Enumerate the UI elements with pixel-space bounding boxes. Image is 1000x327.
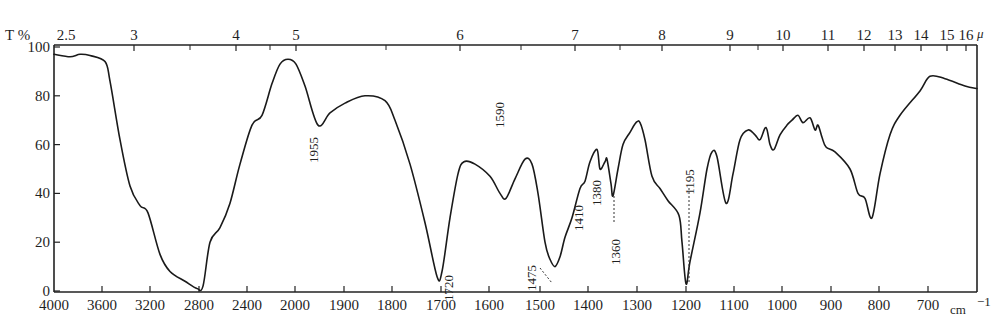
peak-label-1410: 1410: [571, 205, 586, 231]
peak-label-1380: 1380: [589, 180, 604, 206]
top-tick-label: 15: [940, 27, 955, 43]
x-tick-label: 1900: [329, 297, 359, 313]
svg-text:1955: 1955: [306, 137, 321, 163]
top-tick-label: 11: [821, 27, 835, 43]
y-axis-ticks: 020406080100: [28, 39, 61, 299]
top-tick-label: 10: [776, 27, 791, 43]
spectrum-line: [54, 54, 977, 290]
top-tick-label: 8: [658, 27, 666, 43]
x-tick-label: 3600: [87, 297, 117, 313]
x-tick-label: 700: [917, 297, 940, 313]
peak-label-1475: 1475: [524, 265, 552, 291]
x-axis-wavelength-ticks: 2.5345678910111213141516: [57, 27, 974, 51]
x-tick-label: 1300: [622, 297, 652, 313]
top-tick-label: 6: [456, 27, 464, 43]
x-tick-label: 3200: [135, 297, 165, 313]
x-axis-wavenumber-ticks: 4000360032002800240020001900180017001600…: [39, 286, 939, 313]
y-tick-label: 40: [35, 185, 50, 201]
svg-text:cm: cm: [950, 302, 966, 317]
x-tick-label: 2000: [280, 297, 310, 313]
svg-text:1475: 1475: [524, 265, 539, 291]
x-tick-label: 1000: [767, 297, 797, 313]
svg-text:1195: 1195: [682, 169, 697, 195]
peak-leader-line: [540, 268, 552, 283]
top-tick-label: 16: [959, 27, 975, 43]
x-tick-label: 800: [868, 297, 891, 313]
x-tick-label: 900: [820, 297, 843, 313]
x-tick-label: 1500: [525, 297, 555, 313]
svg-text:1410: 1410: [571, 205, 586, 231]
x-axis-unit: cm −1: [950, 294, 991, 317]
y-tick-label: 60: [35, 137, 50, 153]
top-tick-label: 12: [857, 27, 872, 43]
svg-text:1720: 1720: [441, 275, 456, 301]
y-tick-label: 20: [35, 234, 50, 250]
x-tick-label: 4000: [39, 297, 69, 313]
ir-spectrum-chart: 020406080100 400036003200280024002000190…: [0, 0, 1000, 327]
x-tick-label: 1200: [671, 297, 701, 313]
x-tick-label: 2800: [184, 297, 214, 313]
top-tick-label: 7: [571, 27, 579, 43]
x-tick-label: 1100: [719, 297, 748, 313]
svg-text:−1: −1: [977, 294, 991, 309]
x-tick-label: 1400: [573, 297, 603, 313]
x-tick-label: 1800: [377, 297, 407, 313]
top-tick-label: 14: [914, 27, 930, 43]
x-tick-label: 2400: [232, 297, 262, 313]
y-axis-title: T %: [5, 27, 30, 43]
top-axis-unit: μ: [976, 26, 984, 41]
peak-annotations: 19551720159014751410138013601195: [306, 102, 697, 301]
plot-frame: [54, 45, 977, 292]
y-tick-label: 80: [35, 88, 50, 104]
top-tick-label: 13: [888, 27, 903, 43]
peak-label-1720: 1720: [441, 275, 456, 301]
top-tick-label: 5: [292, 27, 300, 43]
peak-label-1360: 1360: [608, 196, 623, 265]
svg-text:1380: 1380: [589, 180, 604, 206]
top-tick-label: 2.5: [57, 27, 76, 43]
svg-text:1360: 1360: [608, 239, 623, 265]
y-tick-label: 100: [28, 39, 51, 55]
top-tick-label: 9: [726, 27, 734, 43]
peak-label-1590: 1590: [492, 102, 507, 128]
top-tick-label: 4: [232, 27, 240, 43]
svg-text:1590: 1590: [492, 102, 507, 128]
x-tick-label: 1600: [474, 297, 504, 313]
top-tick-label: 3: [130, 27, 138, 43]
peak-label-1955: 1955: [306, 137, 321, 163]
